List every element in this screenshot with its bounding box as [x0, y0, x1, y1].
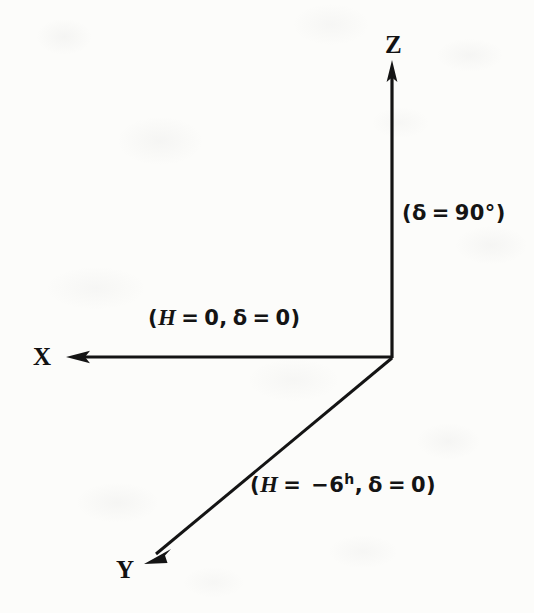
x-ann-equals-2: =	[253, 306, 271, 330]
x-axis-label: X	[33, 344, 51, 369]
z-ann-delta-symbol: δ	[412, 201, 427, 225]
y-ann-equals-2: =	[388, 473, 406, 497]
x-ann-close-paren: )	[291, 306, 301, 330]
y-ann-hour-unit: h	[344, 471, 354, 487]
y-ann-close-paren: )	[426, 473, 436, 497]
x-ann-delta-symbol: δ	[233, 306, 248, 330]
x-ann-equals-1: =	[181, 306, 199, 330]
z-ann-equals: =	[432, 201, 450, 225]
y-axis-label: Y	[116, 557, 134, 582]
y-ann-hour-angle-value: −6	[311, 473, 344, 497]
y-ann-delta-symbol: δ	[368, 473, 383, 497]
figure-canvas: Z X Y (δ=90°) (H=0,δ=0) (H=−6h,δ=0)	[0, 0, 534, 613]
z-ann-value: 90°	[455, 201, 496, 225]
x-ann-hour-angle-symbol: H	[158, 305, 176, 330]
z-axis-line-group	[387, 60, 398, 358]
y-ann-comma: ,	[355, 473, 363, 497]
x-axis-line-group	[66, 351, 393, 363]
x-axis-annotation: (H=0,δ=0)	[148, 306, 301, 329]
y-ann-open-paren: (	[250, 473, 260, 497]
x-ann-hour-angle-value: 0,	[204, 306, 227, 330]
y-ann-delta-value: 0	[411, 473, 426, 497]
z-ann-open-paren: (	[402, 201, 412, 225]
z-ann-close-paren: )	[496, 201, 506, 225]
y-ann-equals-1: =	[283, 473, 301, 497]
y-axis-annotation: (H=−6h,δ=0)	[250, 473, 436, 496]
x-ann-open-paren: (	[148, 306, 158, 330]
z-axis-annotation: (δ=90°)	[402, 203, 506, 224]
z-axis-label: Z	[385, 32, 402, 57]
x-ann-delta-value: 0	[276, 306, 291, 330]
y-axis-line-group	[144, 358, 392, 564]
y-axis-line	[156, 358, 392, 554]
y-ann-hour-angle-symbol: H	[260, 472, 278, 497]
